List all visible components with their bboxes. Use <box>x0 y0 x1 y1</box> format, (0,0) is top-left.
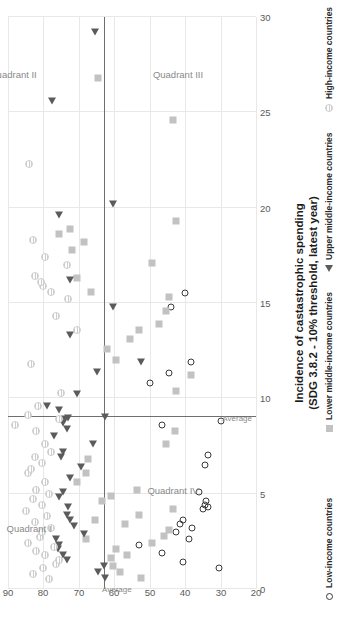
y-tick-90: 90 <box>3 587 14 598</box>
gridline-y-90 <box>8 17 9 589</box>
data-point-1-6 <box>148 540 155 547</box>
legend-triangle-icon <box>325 265 333 272</box>
data-point-3-6 <box>32 547 40 555</box>
legend-item-3[interactable]: High-income countries <box>324 7 334 112</box>
data-point-1-28 <box>155 321 162 328</box>
data-point-2-34 <box>55 212 63 219</box>
x-tick-30: 30 <box>260 12 271 23</box>
data-point-3-16 <box>29 495 37 503</box>
data-point-0-19 <box>166 370 173 377</box>
data-point-0-6 <box>189 525 196 532</box>
data-point-3-32 <box>27 360 35 368</box>
data-point-2-7 <box>52 536 60 543</box>
data-point-2-25 <box>101 414 109 421</box>
data-point-0-3 <box>136 542 143 549</box>
data-point-1-40 <box>95 75 102 82</box>
data-point-1-16 <box>134 486 141 493</box>
data-point-2-35 <box>109 200 117 207</box>
data-point-1-26 <box>127 336 134 343</box>
data-point-0-1 <box>215 565 222 572</box>
data-point-3-33 <box>73 326 81 334</box>
legend-item-label-3: High-income countries <box>324 7 334 99</box>
data-point-0-22 <box>182 290 189 297</box>
data-point-1-36 <box>56 231 63 238</box>
data-point-2-32 <box>109 303 117 310</box>
chart-layer: 0510152025302030405060708090Quadrant IQu… <box>0 0 339 627</box>
data-point-0-16 <box>159 422 166 429</box>
x-tick-10: 10 <box>260 393 271 404</box>
gridline-x-25 <box>8 111 256 112</box>
data-point-3-13 <box>43 513 51 521</box>
data-point-3-35 <box>64 295 72 303</box>
gridline-x-10 <box>8 397 256 398</box>
data-point-1-15 <box>107 492 114 499</box>
data-point-1-37 <box>67 225 74 232</box>
data-point-3-41 <box>41 253 49 261</box>
data-point-0-18 <box>146 380 153 387</box>
data-point-3-7 <box>50 543 58 551</box>
data-point-2-20 <box>50 433 58 440</box>
data-point-3-4 <box>55 556 63 564</box>
rotated-chart-container: 0510152025302030405060708090Quadrant IQu… <box>0 0 339 627</box>
data-point-3-1 <box>29 570 37 578</box>
average-label-vertical: Average <box>222 414 252 423</box>
data-point-1-30 <box>166 294 173 301</box>
data-point-3-2 <box>39 564 47 572</box>
data-point-0-4 <box>185 536 192 543</box>
data-point-0-12 <box>203 498 210 505</box>
data-point-3-27 <box>11 421 19 429</box>
data-point-1-39 <box>169 117 176 124</box>
data-point-1-23 <box>187 372 194 379</box>
legend-open-circle-icon <box>326 593 333 600</box>
legend-item-0[interactable]: Low-income countries <box>324 498 334 600</box>
data-point-1-5 <box>113 546 120 553</box>
x-tick-5: 5 <box>260 488 265 499</box>
data-point-2-14 <box>59 488 67 495</box>
quadrant-label-0: Quadrant I <box>7 523 52 534</box>
data-point-2-16 <box>77 464 85 471</box>
y-tick-20: 20 <box>251 587 262 598</box>
legend-item-label-2: Upper middle-income countries <box>324 132 334 260</box>
legend-item-2[interactable]: Upper middle-income countries <box>324 132 334 272</box>
data-point-1-25 <box>104 345 111 352</box>
x-tick-15: 15 <box>260 298 271 309</box>
x-axis-title-line1: Incidence of castastrophic spending <box>292 17 306 589</box>
data-point-3-30 <box>34 402 42 410</box>
x-tick-25: 25 <box>260 107 271 118</box>
average-label-horizontal: Average <box>102 585 132 594</box>
data-point-3-23 <box>31 453 39 461</box>
data-point-1-4 <box>123 551 130 558</box>
data-point-2-26 <box>55 406 63 413</box>
quadrant-label-2: Quadrant III <box>153 69 203 80</box>
data-point-3-18 <box>32 486 40 494</box>
data-point-0-0 <box>180 559 187 566</box>
data-point-1-38 <box>173 218 180 225</box>
data-point-3-25 <box>41 440 49 448</box>
data-point-3-8 <box>24 539 32 547</box>
data-point-2-19 <box>89 441 97 448</box>
data-point-3-39 <box>31 272 39 280</box>
x-tick-20: 20 <box>260 202 271 213</box>
data-point-2-29 <box>93 368 101 375</box>
data-point-1-19 <box>84 456 91 463</box>
data-point-2-33 <box>66 277 74 284</box>
data-point-1-9 <box>166 526 173 533</box>
gridline-y-20 <box>256 17 257 589</box>
data-point-0-14 <box>201 462 208 469</box>
data-point-3-19 <box>41 478 49 486</box>
data-point-2-37 <box>91 29 99 36</box>
y-tick-70: 70 <box>74 587 85 598</box>
data-point-1-35 <box>81 239 88 246</box>
data-point-0-5 <box>173 528 180 535</box>
data-point-3-29 <box>24 412 32 420</box>
data-point-3-14 <box>22 507 30 515</box>
gridline-y-40 <box>185 17 186 589</box>
legend-item-1[interactable]: Lower middle-income countries <box>324 292 334 432</box>
data-point-3-17 <box>45 490 53 498</box>
data-point-1-33 <box>148 260 155 267</box>
data-point-1-2 <box>109 563 116 570</box>
legend-item-label-1: Lower middle-income countries <box>324 292 334 420</box>
data-point-1-14 <box>98 498 105 505</box>
data-point-2-18 <box>59 448 67 455</box>
data-point-0-8 <box>180 517 187 524</box>
